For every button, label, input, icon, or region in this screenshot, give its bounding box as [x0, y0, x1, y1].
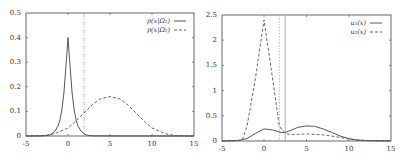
- right-legend-label-u1: u₁(x): [350, 19, 366, 27]
- left-xtick: -5: [23, 140, 30, 148]
- right-xtick: 10: [345, 145, 354, 153]
- left-ytick: 0.5: [10, 9, 21, 17]
- right-xtick: 15: [387, 145, 396, 153]
- left-ytick: 0.2: [10, 83, 21, 91]
- right-legend: u₁(x) u₂(x): [350, 19, 382, 36]
- left-ytick: 0: [17, 132, 21, 140]
- left-ytick: 0.4: [10, 34, 22, 42]
- left-xtick: 0: [66, 140, 70, 148]
- left-series-omega2: [26, 97, 194, 136]
- left-xtick: 15: [190, 140, 199, 148]
- right-ytick: 1.5: [206, 61, 217, 69]
- right-ytick: 2: [213, 36, 217, 44]
- right-legend-label-u2: u₂(x): [350, 28, 366, 36]
- left-series-omega1: [26, 38, 194, 136]
- right-xtick: -5: [219, 145, 226, 153]
- right-xtick: 0: [262, 145, 266, 153]
- left-ytick: 0.3: [10, 58, 21, 66]
- right-series-u1: [222, 126, 391, 141]
- left-ytick: 0.1: [10, 107, 21, 115]
- left-legend: p(x|Ω₁) p(x|Ω₂): [147, 17, 186, 34]
- right-ytick: 2.5: [206, 11, 217, 19]
- left-x-axis: -5 0 5 10 15: [23, 13, 199, 148]
- right-ytick: 0: [213, 137, 217, 145]
- left-legend-label-omega2: p(x|Ω₂): [147, 26, 171, 34]
- left-legend-label-omega1: p(x|Ω₁): [147, 17, 171, 25]
- figure: 0 0.1 0.2 0.3 0.4 0.5 -5 0 5 10 15 p(x|Ω…: [0, 0, 405, 157]
- left-xtick: 10: [148, 140, 157, 148]
- right-ytick: 1: [213, 87, 217, 95]
- right-series-u2: [222, 20, 391, 141]
- right-xtick: 5: [304, 145, 308, 153]
- left-xtick: 5: [108, 140, 112, 148]
- left-plot: 0 0.1 0.2 0.3 0.4 0.5 -5 0 5 10 15 p(x|Ω…: [10, 9, 199, 148]
- right-ytick: 0.5: [206, 112, 217, 120]
- right-plot: 0 0.5 1 1.5 2 2.5 -5 0 5 10 15 u₁(x) u₂(…: [206, 11, 396, 153]
